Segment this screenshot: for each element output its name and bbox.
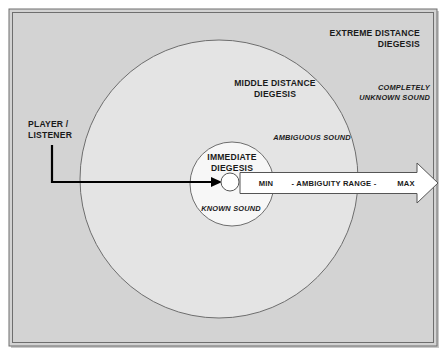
label-completely-unknown-sound-line2: UNKNOWN SOUND [359, 93, 430, 102]
label-player-listener-line2: LISTENER [28, 130, 73, 140]
label-immediate-diegesis-line2: DIEGESIS [211, 163, 253, 173]
label-ambiguous-sound: AMBIGUOUS SOUND [272, 133, 351, 142]
label-extreme-distance-line2: DIEGESIS [378, 39, 420, 49]
arrow-range-label: - AMBIGUITY RANGE - [292, 179, 377, 188]
label-player-listener-line1: PLAYER / [28, 119, 69, 129]
label-extreme-distance-line1: EXTREME DISTANCE [330, 28, 420, 38]
diagram-canvas: EXTREME DISTANCE DIEGESIS COMPLETELY UNK… [0, 0, 448, 362]
arrow-min-label: MIN [259, 179, 274, 188]
label-completely-unknown-sound-line1: COMPLETELY [378, 83, 431, 92]
label-immediate-diegesis-line1: IMMEDIATE [207, 152, 256, 162]
diegesis-zones-diagram: EXTREME DISTANCE DIEGESIS COMPLETELY UNK… [0, 0, 448, 362]
label-known-sound: KNOWN SOUND [201, 204, 261, 213]
label-middle-distance-line1: MIDDLE DISTANCE [234, 78, 316, 88]
label-middle-distance-line2: DIEGESIS [254, 89, 296, 99]
listener-position-dot [221, 173, 239, 191]
arrow-max-label: MAX [397, 179, 414, 188]
